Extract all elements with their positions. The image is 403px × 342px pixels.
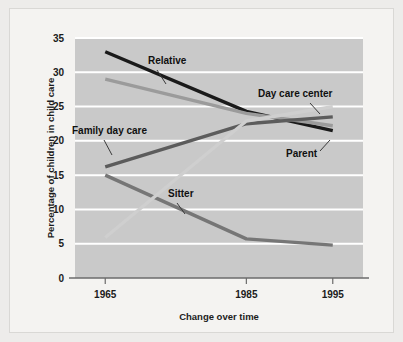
- x-axis: [69, 278, 369, 284]
- line-chart: 05101520253035 196519851995 RelativeDay …: [0, 0, 403, 342]
- chart-figure: 05101520253035 196519851995 RelativeDay …: [0, 0, 403, 342]
- y-tick-label: 5: [58, 238, 64, 249]
- x-tick-label: 1965: [94, 289, 117, 300]
- series-label-sitter: Sitter: [168, 188, 194, 199]
- y-axis-title: Percentage of children in child care: [45, 78, 56, 239]
- series-label-day-care-center: Day care center: [258, 88, 333, 99]
- x-tick-label: 1985: [235, 289, 258, 300]
- y-tick-label: 0: [58, 273, 64, 284]
- series-label-parent: Parent: [286, 148, 318, 159]
- plot-area-background: [75, 38, 363, 278]
- y-tick-label: 35: [53, 33, 65, 44]
- x-axis-title: Change over time: [179, 311, 259, 322]
- x-tick-labels: 196519851995: [94, 289, 344, 300]
- series-label-relative: Relative: [148, 55, 187, 66]
- x-tick-label: 1995: [322, 289, 345, 300]
- series-label-family-day-care: Family day care: [72, 125, 147, 136]
- y-tick-label: 30: [53, 67, 65, 78]
